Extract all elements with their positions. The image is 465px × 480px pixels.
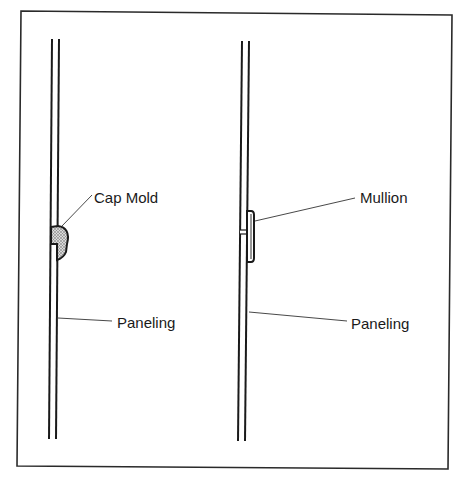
cap-mold-label: Cap Mold	[94, 189, 158, 206]
right-paneling-leader	[249, 312, 347, 321]
left-paneling-leader	[58, 318, 112, 321]
right-paneling-line-outer	[238, 41, 242, 441]
left-paneling-label: Paneling	[117, 314, 175, 331]
cap-mold-leader	[62, 195, 92, 226]
left-assembly: Cap Mold Paneling	[49, 39, 175, 439]
mullion-label: Mullion	[360, 189, 408, 206]
diagram-canvas: Cap Mold Paneling Mullion Paneling	[0, 0, 465, 480]
frame-border	[17, 11, 452, 469]
mullion-leader	[255, 198, 355, 221]
mullion-shape	[247, 211, 254, 262]
cap-mold-shape	[51, 226, 68, 260]
right-assembly: Mullion Paneling	[238, 41, 409, 441]
right-paneling-label: Paneling	[351, 315, 409, 332]
